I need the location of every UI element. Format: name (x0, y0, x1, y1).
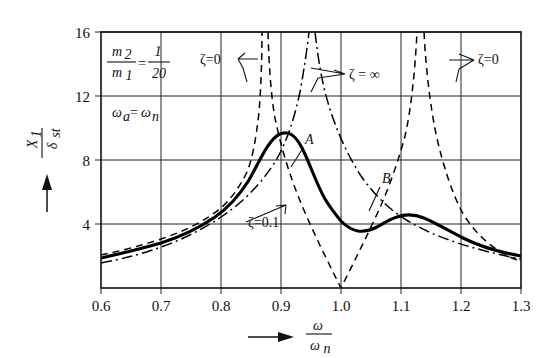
y-axis-denominator: δ (45, 142, 60, 149)
y-tick-label-4: 4 (83, 217, 91, 233)
x-axis-denominator: ω (310, 338, 320, 353)
zeta-zero-left-label: ζ=0 (200, 52, 221, 67)
zeta-point-one-label: ζ=0.1 (248, 215, 279, 230)
zeta-infinity-label: ζ = ∞ (349, 67, 380, 82)
mass-ratio-denominator-subscript: 1 (126, 68, 133, 83)
y-axis-denominator-subscript: st (48, 127, 63, 137)
y-tick-label-12: 12 (75, 89, 90, 105)
x-tick-label-0.8: 0.8 (212, 298, 231, 314)
point-a-label: A (304, 132, 314, 147)
x-tick-label-1.1: 1.1 (392, 298, 411, 314)
tuning-omega-n: ω (141, 105, 151, 120)
tuning-omega-a: ω (112, 105, 122, 120)
y-axis-numerator: X (25, 139, 40, 149)
chart-svg: 16 12 8 4 0.6 0.7 0.8 0.9 1.0 1.1 1.2 1.… (0, 0, 553, 358)
mass-ratio-numerator-m: m (112, 44, 122, 59)
mass-ratio-value-numerator: 1 (155, 44, 162, 59)
tuning-equals-sign: = (129, 105, 138, 120)
mass-ratio-denominator-m: m (112, 65, 122, 80)
x-tick-label-0.9: 0.9 (272, 298, 291, 314)
x-tick-label-1.3: 1.3 (512, 298, 531, 314)
x-axis-numerator: ω (313, 318, 323, 333)
y-tick-label-16: 16 (75, 25, 91, 41)
x-tick-label-0.6: 0.6 (92, 298, 111, 314)
mass-ratio-numerator-subscript: 2 (125, 47, 132, 62)
zeta-zero-right-label: ζ=0 (478, 52, 499, 67)
mass-ratio-value-denominator: 20 (152, 66, 166, 81)
x-axis-denominator-subscript: n (324, 341, 331, 356)
mass-ratio-equals-sign: = (137, 56, 146, 71)
point-b-label: B (382, 171, 391, 186)
chart-figure: 16 12 8 4 0.6 0.7 0.8 0.9 1.0 1.1 1.2 1.… (0, 0, 553, 358)
x-tick-label-1.2: 1.2 (452, 298, 471, 314)
y-tick-label-8: 8 (83, 153, 91, 169)
x-tick-label-1.0: 1.0 (332, 298, 351, 314)
tuning-omega-n-subscript: n (152, 109, 159, 124)
x-tick-label-0.7: 0.7 (152, 298, 171, 314)
